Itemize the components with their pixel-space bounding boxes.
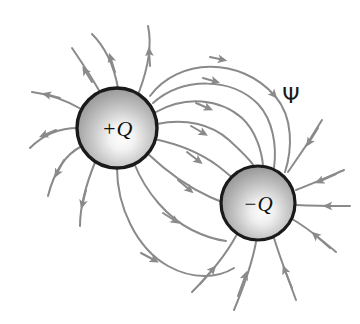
field-line-pos-up-left [72,48,101,94]
negative-charge-label: −Q [243,192,272,216]
positive-charge-label: +Q [102,116,133,141]
field-line-neg-down-left [192,236,236,292]
field-line-neg-top-right [288,120,322,172]
field-line-pos-left-down [48,146,82,196]
field-line-canvas: −Q +Q Ψ [0,0,360,324]
field-line-pos-up-right [139,26,150,92]
field-line-pos-up [92,34,118,88]
field-line-pos-left-up [32,92,83,110]
field-line-between-6 [147,153,232,205]
field-line-pos-down-left [80,160,96,226]
field-line-between-7 [134,163,226,241]
field-line-neg-right-up [296,170,344,190]
dipole-figure: −Q +Q Ψ [0,0,360,324]
negative-charge[interactable]: −Q [221,166,295,240]
psi-annotation-label: Ψ [282,83,299,108]
field-line-between-2 [153,84,275,168]
field-line-between-5 [154,139,238,183]
positive-charge[interactable]: +Q [77,88,157,168]
